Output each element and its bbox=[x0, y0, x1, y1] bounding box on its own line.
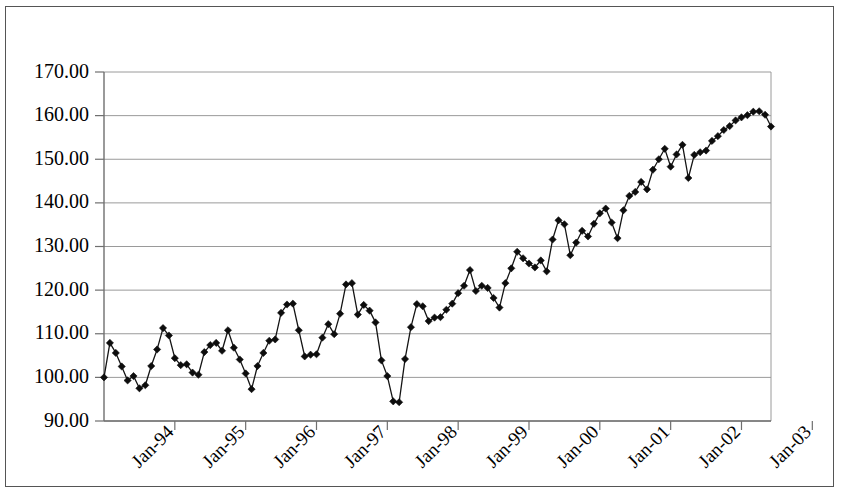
data-point-marker bbox=[390, 398, 397, 405]
y-axis-tick-label: 160.00 bbox=[34, 103, 89, 125]
data-point-marker bbox=[667, 163, 674, 170]
data-point-marker bbox=[573, 239, 580, 246]
data-point-marker bbox=[106, 339, 113, 346]
y-axis-tick-label: 110.00 bbox=[35, 321, 89, 343]
data-point-marker bbox=[490, 294, 497, 301]
data-point-marker bbox=[154, 346, 161, 353]
data-point-marker bbox=[567, 252, 574, 259]
data-point-marker bbox=[555, 217, 562, 224]
data-point-marker bbox=[295, 327, 302, 334]
x-axis-tick-label: Jan-02 bbox=[694, 421, 745, 472]
data-point-marker bbox=[767, 123, 774, 130]
data-point-marker bbox=[756, 108, 763, 115]
y-axis-tick-label: 130.00 bbox=[34, 234, 89, 256]
data-point-marker bbox=[626, 192, 633, 199]
x-axis-tick-label: Jan-99 bbox=[481, 421, 532, 472]
x-axis-tick-label: Jan-01 bbox=[623, 421, 674, 472]
data-point-marker bbox=[148, 362, 155, 369]
y-axis-tick-label: 120.00 bbox=[34, 278, 89, 300]
data-point-marker bbox=[425, 317, 432, 324]
data-point-marker bbox=[590, 220, 597, 227]
data-point-marker bbox=[608, 219, 615, 226]
data-point-marker bbox=[372, 319, 379, 326]
data-point-marker bbox=[384, 372, 391, 379]
data-point-marker bbox=[620, 207, 627, 214]
data-point-marker bbox=[272, 336, 279, 343]
data-point-marker bbox=[378, 357, 385, 364]
y-axis-tick-label: 100.00 bbox=[34, 365, 89, 387]
chart-figure-frame: 90.00100.00110.00120.00130.00140.00150.0… bbox=[5, 6, 834, 487]
data-point-marker bbox=[331, 331, 338, 338]
x-axis-tick-label: Jan-00 bbox=[552, 421, 603, 472]
data-point-marker bbox=[561, 221, 568, 228]
x-axis-tick-label: Jan-03 bbox=[764, 421, 815, 472]
data-point-marker bbox=[354, 311, 361, 318]
data-point-marker bbox=[325, 321, 332, 328]
data-point-marker bbox=[242, 370, 249, 377]
data-point-marker bbox=[661, 145, 668, 152]
data-point-marker bbox=[679, 141, 686, 148]
data-point-marker bbox=[342, 281, 349, 288]
data-point-marker bbox=[348, 280, 355, 287]
data-point-marker bbox=[502, 280, 509, 287]
y-axis-tick-label: 90.00 bbox=[44, 409, 89, 431]
x-axis-tick-label: Jan-96 bbox=[269, 421, 320, 472]
data-point-marker bbox=[614, 235, 621, 242]
data-point-marker bbox=[337, 310, 344, 317]
data-point-marker bbox=[407, 324, 414, 331]
data-point-marker bbox=[649, 166, 656, 173]
data-point-marker bbox=[401, 355, 408, 362]
y-axis-tick-label: 140.00 bbox=[34, 190, 89, 212]
data-point-marker bbox=[266, 337, 273, 344]
x-axis-tick-label: Jan-95 bbox=[198, 421, 249, 472]
chart-canvas: 90.00100.00110.00120.00130.00140.00150.0… bbox=[6, 7, 833, 486]
x-axis-tick-label: Jan-94 bbox=[127, 421, 178, 472]
data-point-marker bbox=[236, 356, 243, 363]
y-axis-tick-label: 170.00 bbox=[34, 60, 89, 82]
data-point-marker bbox=[224, 327, 231, 334]
data-point-marker bbox=[301, 353, 308, 360]
series-line bbox=[104, 111, 771, 402]
data-point-marker bbox=[508, 265, 515, 272]
data-point-marker bbox=[549, 236, 556, 243]
y-axis-tick-label: 150.00 bbox=[34, 147, 89, 169]
data-point-marker bbox=[543, 268, 550, 275]
data-point-marker bbox=[230, 344, 237, 351]
data-point-marker bbox=[496, 304, 503, 311]
data-point-marker bbox=[632, 188, 639, 195]
data-point-marker bbox=[319, 334, 326, 341]
data-point-marker bbox=[248, 386, 255, 393]
data-point-marker bbox=[100, 374, 107, 381]
data-point-marker bbox=[112, 349, 119, 356]
x-axis-tick-label: Jan-97 bbox=[339, 421, 390, 472]
data-point-marker bbox=[254, 362, 261, 369]
data-point-marker bbox=[260, 349, 267, 356]
data-point-marker bbox=[655, 156, 662, 163]
data-point-marker bbox=[118, 363, 125, 370]
data-point-marker bbox=[673, 151, 680, 158]
line-chart: 90.00100.00110.00120.00130.00140.00150.0… bbox=[6, 7, 832, 485]
x-axis-tick-label: Jan-98 bbox=[410, 421, 461, 472]
data-point-marker bbox=[685, 174, 692, 181]
data-point-marker bbox=[313, 351, 320, 358]
data-point-marker bbox=[396, 399, 403, 406]
data-point-marker bbox=[761, 111, 768, 118]
data-point-marker bbox=[289, 300, 296, 307]
data-point-marker bbox=[466, 266, 473, 273]
data-point-marker bbox=[702, 147, 709, 154]
